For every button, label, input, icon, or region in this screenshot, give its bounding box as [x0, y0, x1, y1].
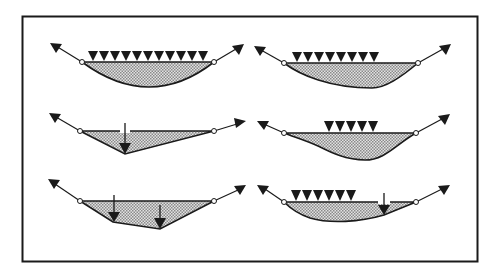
distributed-load — [292, 52, 379, 62]
pin-support-left — [78, 199, 83, 204]
distributed-load — [324, 121, 378, 132]
support-tension-right — [416, 189, 442, 202]
support-tension-left — [55, 184, 80, 201]
pin-support-left — [282, 200, 287, 205]
support-tension-right — [214, 124, 237, 131]
arrow-left-icon — [254, 46, 266, 56]
cable-shape — [80, 131, 214, 154]
pin-support-right — [212, 60, 217, 65]
arrow-right-icon — [234, 118, 246, 128]
panel-bottom-left — [48, 179, 246, 229]
cable-shape — [284, 133, 416, 160]
arrow-right-icon — [439, 44, 451, 55]
arrow-right-icon — [438, 114, 450, 125]
panel-middle-right — [257, 114, 450, 160]
distributed-load — [291, 190, 356, 201]
cable-shape — [284, 202, 416, 222]
pin-support-right — [212, 129, 217, 134]
pin-support-left — [282, 61, 287, 66]
pin-support-right — [414, 131, 419, 136]
support-tension-left — [261, 50, 284, 63]
cable-load-cases-diagram — [0, 0, 497, 275]
arrow-left-icon — [48, 179, 60, 189]
support-tension-right — [214, 190, 238, 201]
panel-top-right — [254, 44, 451, 88]
panel-middle-left — [49, 113, 246, 154]
support-tension-left — [265, 189, 284, 202]
cable-shape — [80, 201, 214, 229]
pin-support-left — [282, 131, 287, 136]
panel-top-left — [50, 43, 244, 87]
panel-bottom-right — [257, 185, 450, 222]
pin-support-left — [80, 60, 85, 65]
pin-support-right — [416, 61, 421, 66]
support-tension-left — [56, 46, 82, 62]
pin-support-right — [414, 200, 419, 205]
support-tension-right — [418, 49, 443, 63]
support-tension-right — [214, 49, 236, 62]
pin-support-left — [78, 129, 83, 134]
arrow-right-icon — [234, 185, 246, 195]
cable-shape — [82, 62, 214, 87]
arrow-right-icon — [232, 44, 244, 55]
cable-shape — [284, 63, 418, 88]
support-tension-left — [56, 117, 80, 131]
arrow-left-icon — [49, 113, 61, 123]
pin-support-right — [212, 199, 217, 204]
distributed-load — [88, 51, 208, 61]
support-tension-right — [416, 119, 442, 133]
